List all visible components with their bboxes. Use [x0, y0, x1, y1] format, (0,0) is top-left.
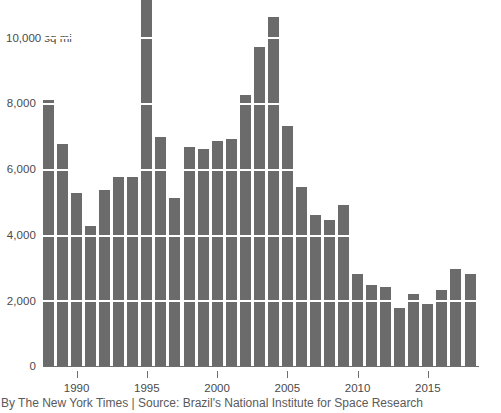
bar-1995 [141, 0, 152, 366]
plot-area [43, 0, 479, 367]
bar-1990 [71, 193, 82, 366]
x-tick-2000 [217, 371, 218, 378]
bar-2004 [268, 17, 279, 366]
deforestation-bar-chart: 8,000 6,000 4,000 2,000 0 10,000 sq mi 1… [0, 0, 501, 413]
x-tick-2005 [287, 371, 288, 378]
gridline-10000 [43, 37, 479, 39]
x-tick-2010 [358, 371, 359, 378]
bar-2005 [282, 126, 293, 366]
gridline-6000 [43, 169, 479, 171]
x-tick-label-1990: 1990 [64, 382, 90, 394]
bar-2014 [408, 294, 419, 366]
bar-1992 [99, 190, 110, 366]
bar-1988 [43, 100, 54, 366]
bar-2003 [254, 47, 265, 366]
bar-2012 [380, 287, 391, 366]
bar-2002 [240, 95, 251, 366]
chart-credit: By The New York Times | Source: Brazil's… [1, 396, 423, 410]
bar-2018 [465, 274, 476, 366]
bar-2008 [324, 220, 335, 366]
x-axis-baseline [43, 366, 479, 367]
bar-2017 [450, 269, 461, 366]
bar-2013 [394, 308, 405, 366]
bar-1999 [198, 149, 209, 366]
bar-1997 [169, 198, 180, 366]
x-tick-label-2010: 2010 [345, 382, 371, 394]
bar-2015 [422, 304, 433, 367]
bar-2001 [226, 139, 237, 366]
x-tick-label-1995: 1995 [134, 382, 160, 394]
gridline-2000 [43, 300, 479, 302]
bar-1991 [85, 226, 96, 366]
bar-2011 [366, 285, 377, 366]
bar-series [43, 0, 479, 366]
x-tick-label-2000: 2000 [204, 382, 230, 394]
bar-2010 [352, 274, 363, 366]
bar-1996 [155, 137, 166, 366]
bar-1993 [113, 177, 124, 366]
bar-2000 [212, 141, 223, 366]
x-tick-1995 [147, 371, 148, 378]
x-tick-2015 [428, 371, 429, 378]
bar-2007 [310, 215, 321, 366]
x-tick-1990 [77, 371, 78, 378]
gridline-8000 [43, 103, 479, 105]
x-tick-label-2015: 2015 [415, 382, 441, 394]
bar-1989 [57, 144, 68, 366]
bar-1998 [184, 147, 195, 366]
bar-2006 [296, 187, 307, 366]
x-tick-label-2005: 2005 [275, 382, 301, 394]
gridline-4000 [43, 235, 479, 237]
bar-1994 [127, 177, 138, 366]
bar-2009 [338, 205, 349, 366]
